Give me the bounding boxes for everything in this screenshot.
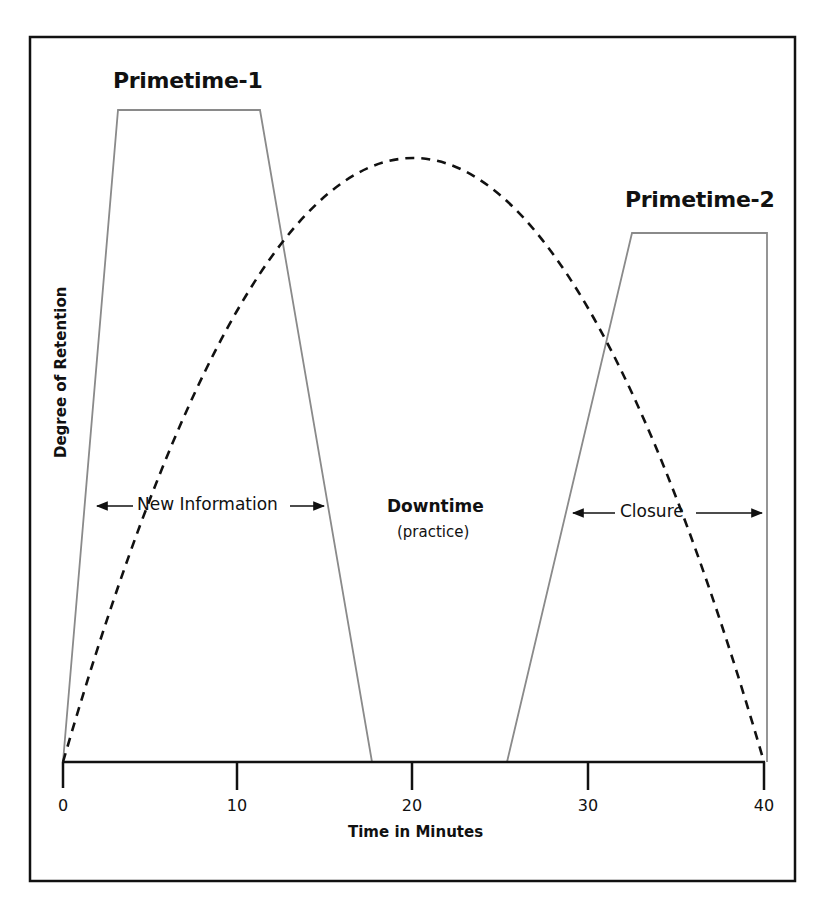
- retention-curve: [63, 158, 764, 762]
- figure-frame: [30, 37, 795, 881]
- downtime-label: Downtime: [387, 496, 484, 516]
- primetime-1-shape: [63, 110, 372, 762]
- closure-label: Closure: [620, 501, 684, 521]
- y-axis-title: Degree of Retention: [52, 287, 70, 458]
- retention-diagram: Primetime-1 Primetime-2 New Information …: [0, 0, 815, 908]
- x-tick-30: 30: [578, 796, 598, 815]
- cropped-caption: [30, 898, 140, 908]
- primetime-1-label: Primetime-1: [113, 68, 262, 93]
- x-tick-40: 40: [754, 796, 774, 815]
- downtime-subtitle: (practice): [397, 523, 469, 541]
- primetime-2-shape: [507, 233, 767, 762]
- x-tick-0: 0: [58, 796, 68, 815]
- primetime-2-label: Primetime-2: [625, 187, 774, 212]
- x-axis-ticks: [63, 762, 764, 790]
- x-tick-10: 10: [227, 796, 247, 815]
- x-tick-20: 20: [402, 796, 422, 815]
- new-information-label: New Information: [137, 494, 278, 514]
- x-axis-title: Time in Minutes: [348, 823, 483, 841]
